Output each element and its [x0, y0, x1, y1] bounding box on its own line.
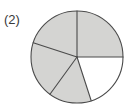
- pie-slice-5: [77, 11, 123, 57]
- figure-container: (2): [0, 0, 130, 108]
- pie-chart: [0, 0, 130, 108]
